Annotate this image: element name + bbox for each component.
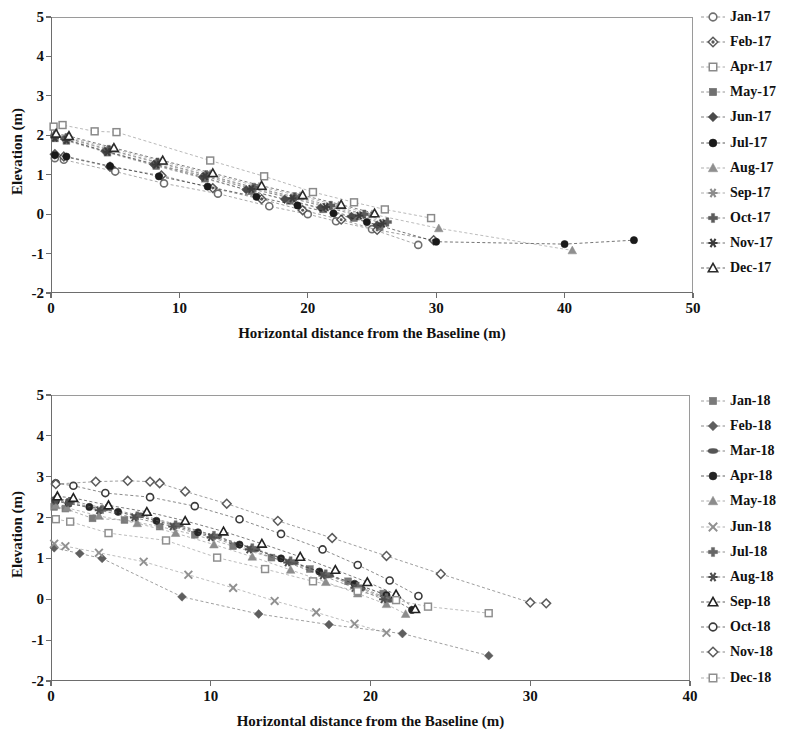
data-point <box>113 129 120 136</box>
legend-marker-icon <box>700 10 726 24</box>
data-point <box>62 542 70 550</box>
series-oct-17 <box>51 131 392 226</box>
x-axis-tick-label: 20 <box>363 688 378 705</box>
y-axis-tick-label: -1 <box>14 245 44 262</box>
legend-marker-icon <box>700 620 726 634</box>
legend-marker-icon <box>700 520 726 534</box>
legend-label: Apr-18 <box>730 469 772 483</box>
data-point <box>262 566 269 573</box>
legend-marker-icon <box>700 211 726 225</box>
data-point <box>383 629 391 637</box>
x-axis-tick-mark <box>50 681 51 686</box>
data-point <box>261 173 268 180</box>
data-point <box>194 529 201 536</box>
legend-item-jul-17[interactable]: Jul-17 <box>700 130 776 155</box>
legend-item-dec-17[interactable]: Dec-17 <box>700 256 776 281</box>
x-axis-tick-label: 50 <box>686 300 701 317</box>
data-point <box>219 527 228 535</box>
x-axis-tick-label: 40 <box>683 688 698 705</box>
legend-item-feb-17[interactable]: Feb-17 <box>700 29 776 54</box>
series-apr-17 <box>50 122 434 222</box>
x-axis-tick-label: 10 <box>172 300 187 317</box>
data-point <box>428 215 435 222</box>
legend-item-jan-17[interactable]: Jan-17 <box>700 4 776 29</box>
data-point <box>433 238 440 245</box>
data-point <box>155 173 162 180</box>
data-point <box>415 592 422 599</box>
data-point <box>51 151 58 158</box>
data-point <box>278 530 285 537</box>
legend-item-feb-18[interactable]: Feb-18 <box>700 413 776 438</box>
legend-label: Oct-17 <box>730 211 770 225</box>
x-axis-tick-mark <box>307 293 308 298</box>
legend-item-aug-17[interactable]: Aug-17 <box>700 155 776 180</box>
series-line <box>54 548 489 656</box>
data-point <box>214 190 221 197</box>
x-axis-tick-mark <box>564 293 565 298</box>
legend-item-jun-17[interactable]: Jun-17 <box>700 105 776 130</box>
x-axis-tick-label: 20 <box>300 300 315 317</box>
x-axis-tick-mark <box>179 293 180 298</box>
legend-marker-icon <box>700 645 726 659</box>
series-line <box>54 507 383 594</box>
y-axis-title: Elevation (m) <box>9 77 26 227</box>
legend-marker-icon <box>700 394 726 408</box>
legend-item-apr-18[interactable]: Apr-18 <box>700 464 776 489</box>
data-point <box>351 199 358 206</box>
data-point <box>561 241 568 248</box>
legend-item-jun-18[interactable]: Jun-18 <box>700 514 776 539</box>
x-axis-tick-label: 30 <box>429 300 444 317</box>
plot-area: -2-101234501020304050Elevation (m)Horizo… <box>51 17 693 293</box>
legend-item-nov-18[interactable]: Nov-18 <box>700 640 776 665</box>
legend-item-apr-17[interactable]: Apr-17 <box>700 54 776 79</box>
legend-item-sep-17[interactable]: Sep-17 <box>700 180 776 205</box>
legend-item-may-17[interactable]: May-17 <box>700 80 776 105</box>
data-point <box>485 610 492 617</box>
x-axis-tick-label: 30 <box>523 688 538 705</box>
legend-item-oct-18[interactable]: Oct-18 <box>700 615 776 640</box>
legend-item-oct-17[interactable]: Oct-17 <box>700 206 776 231</box>
legend-marker-icon <box>700 545 726 559</box>
legend-item-dec-18[interactable]: Dec-18 <box>700 665 776 690</box>
y-axis-tick-label: 4 <box>14 427 44 444</box>
x-axis-tick-mark <box>370 681 371 686</box>
data-point <box>181 517 190 525</box>
legend-label: Mar-18 <box>730 444 775 458</box>
data-point <box>69 494 78 502</box>
data-point <box>140 558 148 566</box>
chart-legend: Jan-17Feb-17Apr-17May-17Jun-17Jul-17Aug-… <box>700 4 776 281</box>
data-point <box>52 516 59 523</box>
data-point <box>146 477 155 486</box>
chart-legend: Jan-18Feb-18Mar-18Apr-18May-18Jun-18Jul-… <box>700 388 776 690</box>
data-point <box>398 629 407 638</box>
legend-item-jan-18[interactable]: Jan-18 <box>700 388 776 413</box>
legend-label: Feb-18 <box>730 419 771 433</box>
data-point <box>143 508 152 516</box>
legend-item-sep-18[interactable]: Sep-18 <box>700 590 776 615</box>
x-axis-tick-label: 10 <box>203 688 218 705</box>
legend-item-mar-18[interactable]: Mar-18 <box>700 438 776 463</box>
legend-item-jul-18[interactable]: Jul-18 <box>700 539 776 564</box>
series-line <box>56 481 546 604</box>
legend-item-aug-18[interactable]: Aug-18 <box>700 564 776 589</box>
data-point <box>312 608 320 616</box>
data-point <box>86 503 93 510</box>
series-line <box>56 500 383 599</box>
legend-label: Dec-18 <box>730 671 771 685</box>
data-point <box>75 549 84 558</box>
legend-item-nov-17[interactable]: Nov-17 <box>700 231 776 256</box>
legend-label: Aug-18 <box>730 570 774 584</box>
x-axis-tick-label: 0 <box>47 300 55 317</box>
legend-marker-icon <box>700 161 726 175</box>
x-axis-tick-mark <box>436 293 437 298</box>
data-point <box>393 597 400 604</box>
data-point <box>294 202 301 209</box>
legend-marker-icon <box>700 570 726 584</box>
x-axis-tick-mark <box>689 681 690 686</box>
y-axis-title: Elevation (m) <box>9 460 26 610</box>
data-point <box>273 516 282 525</box>
legend-item-may-18[interactable]: May-18 <box>700 489 776 514</box>
data-point <box>155 479 164 488</box>
y-axis-tick-label: -2 <box>14 673 44 690</box>
legend-marker-icon <box>700 236 726 250</box>
